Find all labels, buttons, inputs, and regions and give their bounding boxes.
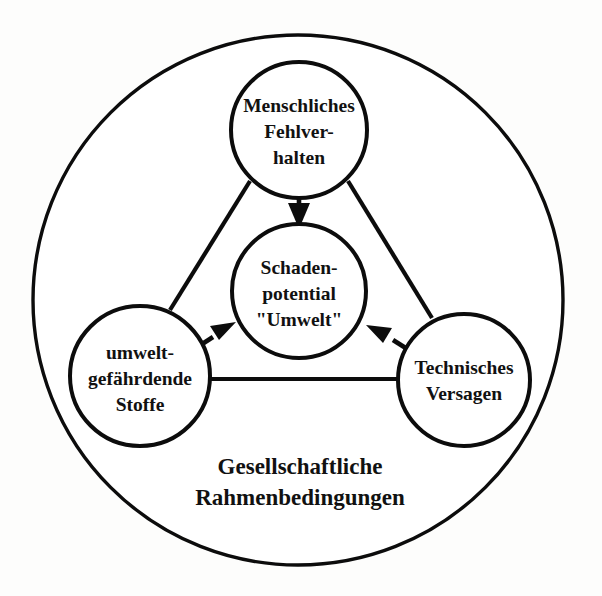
node-umweltgefaehrdende-stoffe[interactable]: umwelt- gefährdende Stoffe [70, 306, 210, 446]
node-label-center-line2: potential [262, 283, 336, 304]
node-label-right-line1: Technisches [415, 357, 514, 378]
node-label-right-line2: Versagen [426, 383, 502, 404]
diagram-canvas: Menschliches Fehlver- halten Schaden- po… [0, 0, 602, 596]
node-menschliches-fehlverhalten[interactable]: Menschliches Fehlver- halten [231, 62, 367, 198]
node-label-top-line2: Fehlver- [264, 121, 334, 142]
node-technisches-versagen[interactable]: Technisches Versagen [398, 314, 530, 446]
caption-line2: Rahmenbedingungen [195, 485, 405, 510]
node-label-top-line3: halten [273, 147, 325, 168]
node-schadenpotential-umwelt[interactable]: Schaden- potential "Umwelt" [232, 224, 366, 358]
node-label-center-line3: "Umwelt" [256, 309, 343, 330]
node-label-top-line1: Menschliches [243, 95, 355, 116]
node-label-left-line2: gefährdende [88, 368, 192, 389]
caption-line1: Gesellschaftliche [218, 454, 383, 479]
diagram-root: Menschliches Fehlver- halten Schaden- po… [0, 0, 602, 596]
node-label-left-line3: Stoffe [116, 394, 165, 415]
node-label-left-line1: umwelt- [106, 342, 174, 363]
node-label-center-line1: Schaden- [261, 257, 338, 278]
node-circle-technisches-versagen[interactable] [398, 314, 530, 446]
